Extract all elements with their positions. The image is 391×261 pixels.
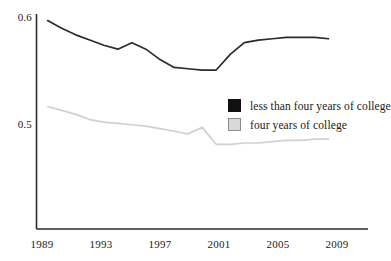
legend-item: less than four years of college: [228, 96, 391, 115]
y-tick-label: 0.5: [4, 118, 32, 130]
x-tick-label: 1989: [22, 238, 62, 250]
legend-swatch-icon: [228, 99, 241, 112]
legend-item: four years of college: [228, 115, 391, 134]
legend-label: four years of college: [250, 119, 347, 131]
x-tick-label: 2001: [199, 238, 239, 250]
legend-label: less than four years of college: [250, 100, 391, 112]
x-tick-label: 1993: [81, 238, 121, 250]
series-line-four-years: [48, 21, 329, 71]
chart-legend: less than four years of collegefour year…: [228, 96, 391, 134]
x-tick-label: 1997: [140, 238, 180, 250]
legend-swatch-icon: [228, 118, 241, 131]
x-tick-label: 2005: [258, 238, 298, 250]
y-tick-label: 0.6: [4, 11, 32, 23]
x-tick-label: 2009: [317, 238, 357, 250]
